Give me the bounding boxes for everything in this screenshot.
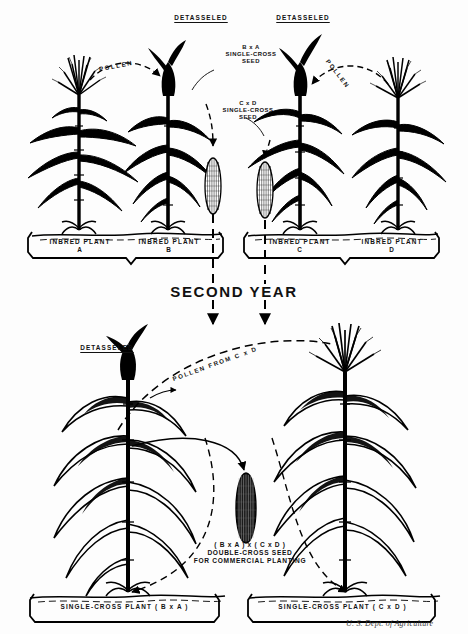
label-seed-ba-line2: SINGLE-CROSS xyxy=(206,51,296,58)
caption-inbred-c-text: INBRED PLANT xyxy=(256,238,344,246)
ear-single-cross-cd xyxy=(257,162,273,218)
label-double-cross-line1: ( B x A ) x ( C x D ) xyxy=(160,541,340,549)
label-seed-cd-line1: C x D xyxy=(203,100,293,107)
caption-inbred-a-text: INBRED PLANT xyxy=(36,238,124,246)
caption-inbred-c-letter: C xyxy=(256,246,344,254)
label-double-cross-line3: FOR COMMERCIAL PLANTING xyxy=(160,557,340,565)
corn-hybrid-diagram-artwork xyxy=(0,0,468,634)
label-seed-cd: C x D SINGLE-CROSS SEED xyxy=(203,100,293,121)
credit-line: U. S. Dept. of Agriculture xyxy=(346,619,433,628)
label-seed-ba-line1: B x A xyxy=(206,44,296,51)
caption-inbred-c: INBRED PLANT C xyxy=(256,238,344,253)
label-detasseled-second-year: DETASSELED xyxy=(62,344,152,352)
caption-inbred-d-letter: D xyxy=(348,246,436,254)
ear-double-cross xyxy=(236,473,256,543)
caption-inbred-a-letter: A xyxy=(36,246,124,254)
caption-inbred-d-text: INBRED PLANT xyxy=(348,238,436,246)
caption-inbred-a: INBRED PLANT A xyxy=(36,238,124,253)
label-seed-ba-line3: SEED xyxy=(206,58,296,65)
label-seed-cd-line3: SEED xyxy=(203,114,293,121)
caption-inbred-d: INBRED PLANT D xyxy=(348,238,436,253)
label-second-year: SECOND YEAR xyxy=(159,283,309,301)
label-seed-cd-line2: SINGLE-CROSS xyxy=(203,107,293,114)
figure-canvas: DETASSELED DETASSELED POLLEN POLLEN B x … xyxy=(0,0,468,634)
caption-single-cross-cd: SINGLE-CROSS PLANT ( C x D ) xyxy=(255,603,430,611)
label-seed-ba: B x A SINGLE-CROSS SEED xyxy=(206,44,296,65)
caption-inbred-b-text: INBRED PLANT xyxy=(125,238,213,246)
label-double-cross-seed: ( B x A ) x ( C x D ) DOUBLE-CROSS SEED … xyxy=(160,541,340,564)
caption-single-cross-ba: SINGLE-CROSS PLANT ( B x A ) xyxy=(37,603,212,611)
label-detasseled-right: DETASSELED xyxy=(218,14,388,22)
caption-inbred-b: INBRED PLANT B xyxy=(125,238,213,253)
ear-single-cross-ba xyxy=(205,158,221,214)
label-double-cross-line2: DOUBLE-CROSS SEED xyxy=(160,549,340,557)
caption-inbred-b-letter: B xyxy=(125,246,213,254)
